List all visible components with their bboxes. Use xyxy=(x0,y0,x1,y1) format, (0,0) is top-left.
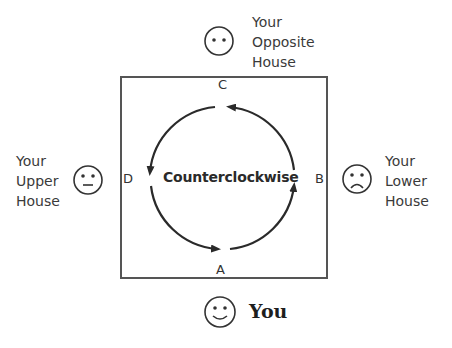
label-line: House xyxy=(252,52,315,72)
label-line: Lower xyxy=(385,171,429,191)
direction-label: Counterclockwise xyxy=(163,169,299,185)
label-line: Opposite xyxy=(252,32,315,52)
corner-label-d: D xyxy=(123,171,133,186)
you-face-icon xyxy=(205,297,235,327)
lower-face-icon xyxy=(343,165,371,193)
corner-label-c: C xyxy=(218,77,227,92)
opposite-face-icon xyxy=(205,27,233,55)
opposite-house-label: Your Opposite House xyxy=(252,12,315,72)
upper-face-icon xyxy=(74,166,102,194)
upper-house-label: Your Upper House xyxy=(16,151,60,211)
corner-label-b: B xyxy=(315,171,324,186)
corner-label-a: A xyxy=(216,262,225,277)
label-line: House xyxy=(16,191,60,211)
label-line: Your xyxy=(252,12,315,32)
label-line: House xyxy=(385,191,429,211)
label-line: Your xyxy=(385,151,429,171)
label-line: Upper xyxy=(16,171,60,191)
lower-house-label: Your Lower House xyxy=(385,151,429,211)
label-line: Your xyxy=(16,151,60,171)
you-label: You xyxy=(249,300,287,322)
